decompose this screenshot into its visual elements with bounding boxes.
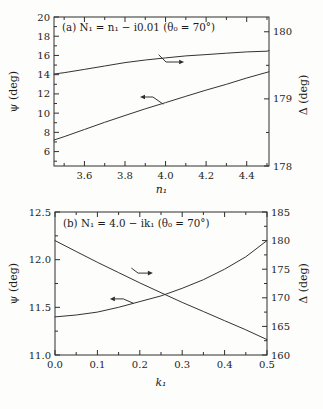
right-y-tick-label: 178 [273, 161, 292, 172]
x-tick-label: 3.8 [117, 170, 133, 181]
plot-frame [54, 17, 269, 166]
plot-a-axes-and-curves: 3.63.84.04.24.420181614121086180179178 [37, 12, 292, 182]
right-y-tick-label: 185 [271, 207, 290, 218]
arrowhead-right-icon [179, 60, 184, 65]
delta-curve [54, 51, 269, 74]
plot-a: 3.63.84.04.24.420181614121086180179178 (… [7, 12, 310, 197]
right-y-tick-label: 160 [271, 350, 290, 361]
x-tick-label: 4.0 [158, 170, 174, 181]
left-y-tick-label: 12.5 [29, 207, 51, 218]
x-tick-label: 0.3 [174, 359, 190, 370]
left-y-tick-label: 14 [37, 69, 50, 80]
left-y-tick-label: 11.0 [29, 350, 51, 361]
psi-curve [55, 241, 267, 317]
plot-a-right-yaxis-label: Δ (deg) [297, 75, 310, 116]
plot-b: 0.00.10.20.30.40.512.512.011.511.0185180… [7, 207, 310, 390]
right-y-tick-label: 179 [273, 93, 292, 104]
left-y-tick-label: 6 [44, 146, 50, 157]
x-tick-label: 4.4 [239, 170, 255, 181]
left-y-tick-label: 10 [37, 108, 50, 119]
right-y-tick-label: 180 [273, 26, 292, 37]
left-y-tick-label: 8 [44, 127, 50, 138]
plot-a-xaxis-label: n₁ [156, 183, 168, 196]
ellipsometry-two-panel-chart: 3.63.84.04.24.420181614121086180179178 (… [0, 0, 323, 409]
figure-canvas: 3.63.84.04.24.420181614121086180179178 (… [0, 0, 323, 409]
x-tick-label: 3.6 [76, 170, 92, 181]
right-y-tick-label: 180 [271, 235, 290, 246]
psi-pointer-line [115, 299, 133, 303]
left-y-tick-label: 12.0 [29, 254, 51, 265]
x-tick-label: 0.2 [132, 359, 148, 370]
delta-pointer-line [132, 268, 148, 273]
arrowhead-left-icon [140, 95, 145, 100]
plot-a-title: (a) N₁ = n₁ − i0.01 (θ₀ = 70°) [62, 21, 215, 33]
psi-pointer-line [145, 97, 163, 104]
plot-b-xaxis-label: k₁ [155, 376, 166, 389]
x-tick-label: 0.1 [89, 359, 105, 370]
delta-curve [55, 241, 267, 340]
x-tick-label: 4.2 [198, 170, 214, 181]
left-y-tick-label: 18 [37, 31, 50, 42]
right-y-tick-label: 175 [271, 264, 290, 275]
arrowhead-right-icon [148, 271, 153, 276]
left-y-tick-label: 12 [37, 88, 50, 99]
plot-b-title: (b) N₁ = 4.0 − ik₁ (θ₀ = 70°) [63, 217, 209, 229]
arrowhead-left-icon [110, 297, 115, 302]
left-y-tick-label: 16 [37, 50, 50, 61]
plot-frame [55, 212, 267, 355]
x-tick-label: 0.0 [47, 359, 63, 370]
delta-pointer-line [159, 55, 179, 62]
x-tick-label: 0.5 [259, 359, 275, 370]
plot-b-right-yaxis-label: Δ (deg) [297, 263, 310, 304]
x-tick-label: 0.4 [217, 359, 233, 370]
right-y-tick-label: 170 [271, 292, 290, 303]
left-y-tick-label: 11.5 [29, 302, 51, 313]
plot-a-left-yaxis-label: ψ (deg) [7, 71, 20, 112]
right-y-tick-label: 165 [271, 321, 290, 332]
left-y-tick-label: 20 [37, 12, 50, 23]
plot-b-axes-and-curves: 0.00.10.20.30.40.512.512.011.511.0185180… [29, 207, 290, 371]
psi-curve [54, 72, 269, 140]
plot-b-left-yaxis-label: ψ (deg) [7, 263, 20, 304]
